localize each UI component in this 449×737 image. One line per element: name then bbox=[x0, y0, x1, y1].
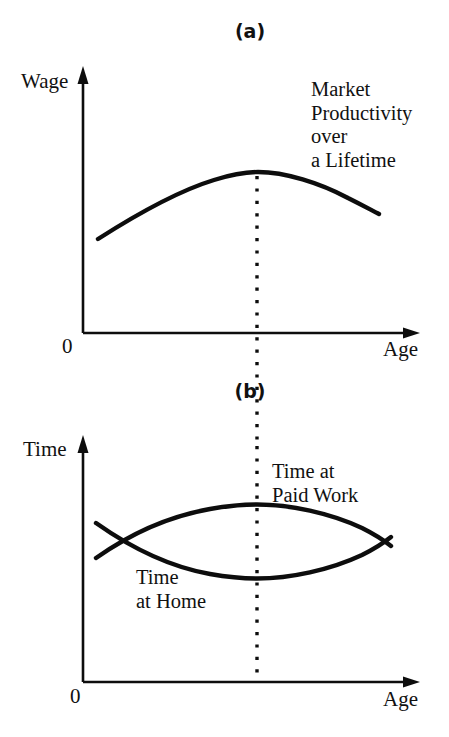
figure-line-art bbox=[0, 0, 449, 737]
panel-b-plot bbox=[78, 435, 421, 688]
panel-a-productivity-curve bbox=[98, 172, 379, 239]
panel-a-plot bbox=[78, 66, 421, 444]
panel-b-x-axis-arrow bbox=[403, 677, 420, 688]
panel-b-y-axis-arrow bbox=[78, 435, 89, 453]
panel-a-x-axis-arrow bbox=[403, 328, 420, 339]
panel-a-y-axis-arrow bbox=[78, 66, 89, 84]
figure-container: (a) Wage Age 0 Market Productivity over … bbox=[0, 0, 449, 737]
